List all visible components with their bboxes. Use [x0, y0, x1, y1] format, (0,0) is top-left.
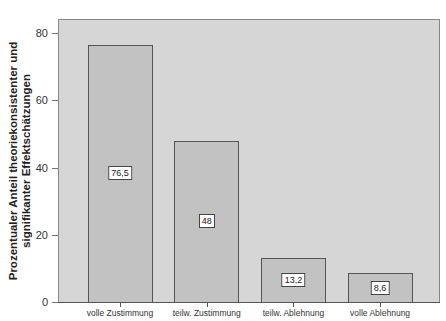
bar-value-label: 8,6 — [371, 281, 390, 295]
y-tick — [52, 100, 58, 101]
x-tick — [293, 303, 294, 307]
y-axis-title-line-1: Prozentualer Anteil theoriekonsistenter … — [7, 19, 20, 303]
y-axis-title: Prozentualer Anteil theoriekonsistenter … — [0, 19, 40, 303]
x-tick-label: volle Zustimmung — [87, 308, 154, 318]
x-axis-line — [58, 302, 440, 303]
y-axis-title-line-2: signifikanter Effektschätzungen — [20, 19, 33, 303]
y-tick — [52, 302, 58, 303]
x-tick — [207, 303, 208, 307]
y-tick-label: 40 — [36, 162, 48, 174]
y-tick-label: 20 — [36, 229, 48, 241]
y-tick-label: 80 — [36, 27, 48, 39]
x-tick-label: teilw. Ablehnung — [263, 308, 324, 318]
y-tick-label: 60 — [36, 94, 48, 106]
x-tick — [380, 303, 381, 307]
bar-value-label: 76,5 — [108, 166, 132, 180]
bar-value-label: 48 — [199, 214, 215, 228]
y-tick — [52, 33, 58, 34]
x-tick-label: teilw. Zustimmung — [173, 308, 241, 318]
bar-value-label: 13,2 — [282, 273, 306, 287]
y-tick — [52, 235, 58, 236]
y-tick-label: 0 — [42, 296, 48, 308]
x-tick — [120, 303, 121, 307]
y-tick — [52, 168, 58, 169]
x-tick-label: volle Ablehnung — [350, 308, 410, 318]
